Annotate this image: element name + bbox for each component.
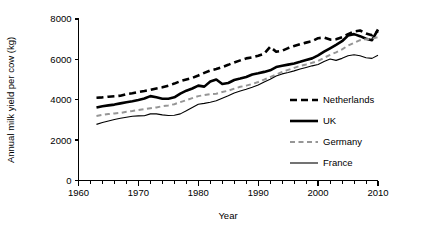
y-axis-title: Annual milk yield per cow (kg)	[5, 37, 16, 163]
x-tick-label: 1980	[188, 187, 209, 198]
series-line-france	[96, 55, 378, 125]
legend-label-france: France	[323, 157, 353, 168]
x-tick-label: 1960	[68, 187, 89, 198]
legend-label-netherlands: Netherlands	[323, 94, 374, 105]
legend-label-germany: Germany	[323, 136, 362, 147]
x-tick-label: 1970	[128, 187, 149, 198]
line-chart: 02000400060008000 1960197019801990200020…	[0, 0, 428, 227]
series-line-netherlands	[96, 31, 378, 98]
y-tick-label: 8000	[50, 13, 71, 24]
chart-figure: 02000400060008000 1960197019801990200020…	[0, 0, 428, 227]
legend-label-uk: UK	[323, 115, 337, 126]
y-tick-label: 6000	[50, 54, 71, 65]
y-tick-labels-group: 02000400060008000	[50, 13, 71, 186]
y-tick-label: 2000	[50, 135, 71, 146]
legend: NetherlandsUKGermanyFrance	[290, 94, 374, 168]
x-tick-label: 2010	[367, 187, 388, 198]
x-tick-labels-group: 196019701980199020002010	[68, 187, 389, 198]
x-tick-label: 2000	[308, 187, 329, 198]
x-tick-label: 1990	[248, 187, 269, 198]
y-tick-label: 4000	[50, 94, 71, 105]
x-axis-title: Year	[218, 210, 237, 221]
y-tick-label: 0	[66, 175, 71, 186]
plot-series-group	[96, 30, 378, 125]
